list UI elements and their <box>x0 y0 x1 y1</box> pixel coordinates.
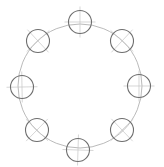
holes-group <box>7 7 155 166</box>
tangent-centerline <box>27 30 50 51</box>
hole-bottom <box>63 135 94 166</box>
hole-top <box>65 7 96 38</box>
tangent-centerline <box>111 119 133 140</box>
tangent-centerline <box>111 30 134 51</box>
hole-top-left <box>27 30 50 53</box>
tangent-centerline <box>22 72 23 103</box>
hole-left <box>7 72 38 103</box>
hole-top-right <box>111 30 134 53</box>
bolt-circle-drawing <box>0 0 164 167</box>
tangent-centerline <box>63 150 94 151</box>
hole-bottom-right <box>111 119 134 142</box>
hole-right <box>124 71 155 102</box>
hole-bottom-left <box>26 119 49 142</box>
